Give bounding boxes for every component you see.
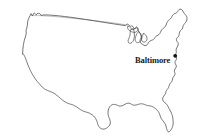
city-label-baltimore: Baltimore [135, 56, 170, 65]
city-marker-baltimore-dot [173, 54, 177, 58]
us-map-svg [0, 0, 210, 140]
great-lake-huron-path [142, 34, 147, 43]
us-map-figure: Baltimore [0, 0, 210, 140]
us-mainland-outline-path [23, 9, 187, 132]
